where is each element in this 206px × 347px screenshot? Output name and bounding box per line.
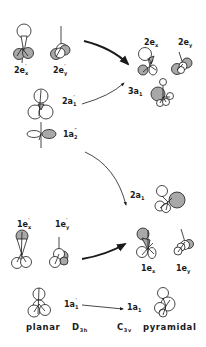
label-2a1: 2a1 [130, 191, 145, 201]
arrow-2a1-prime-to-3a1 [82, 83, 124, 104]
label-1ex: 1ex [141, 264, 156, 274]
orbital-2a1-prime [28, 89, 53, 119]
label-3a1: 3a1 [128, 87, 143, 97]
orbital-1ex [137, 228, 157, 259]
arrow-1a1-prime-to-1a1 [82, 305, 123, 309]
label-1ey: 1ey [176, 264, 191, 275]
orbital-2a1 [155, 186, 185, 213]
arrow-1e-prime-to-1e [82, 244, 125, 259]
label-c3v: C3v [117, 322, 132, 333]
orbital-1ey [174, 229, 194, 255]
orbital-2ex [138, 48, 157, 76]
label-1ey-prime: 1ey′ [55, 217, 70, 231]
correlation-diagram: 2ex′ 2ey′ 2a1′ 1a2″ 1ex′ [0, 0, 206, 347]
orbital-2ex-prime [14, 24, 34, 63]
label-2ex-prime: 2ex′ [14, 63, 29, 76]
arrow-2e-prime-to-2e [84, 41, 128, 64]
orbital-1a2-dprime [27, 122, 56, 148]
orbital-2ey-prime [51, 26, 71, 60]
orbital-1a1 [155, 288, 176, 318]
orbital-3a1 [151, 79, 174, 107]
label-d3h: D3h [72, 322, 88, 333]
label-2ey: 2ey [178, 38, 193, 49]
orbital-2ey [172, 52, 193, 75]
arrow-1a2-dprime-to-2a1 [85, 152, 126, 205]
label-planar: planar [26, 322, 61, 332]
label-2a1-prime: 2a1′ [62, 94, 77, 107]
label-1a2-dprime: 1a2″ [63, 127, 78, 140]
label-1a1-prime: 1a1′ [64, 297, 79, 310]
label-2ey-prime: 2ey′ [53, 63, 68, 77]
orbital-1ex-prime [12, 230, 32, 269]
label-1a1: 1a1 [127, 303, 142, 313]
label-pyramidal: pyramidal [143, 322, 196, 332]
orbital-1a1-prime [28, 288, 51, 317]
label-2ex: 2ex [144, 38, 159, 48]
label-1ex-prime: 1ex′ [17, 217, 32, 230]
orbital-1ey-prime [50, 237, 69, 268]
